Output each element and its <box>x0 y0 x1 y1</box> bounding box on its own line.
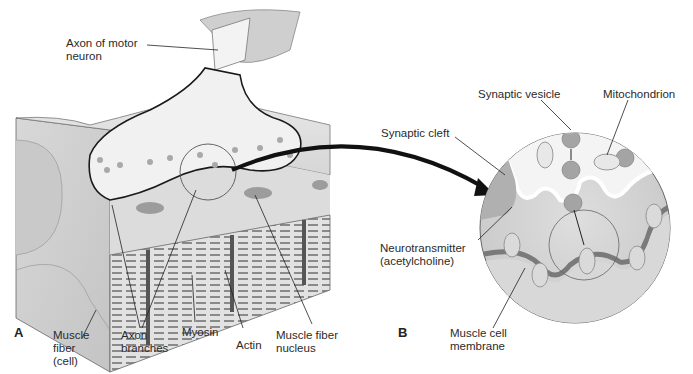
label-actin: Actin <box>236 339 262 352</box>
label-muscle-fiber-nucleus: Muscle fiber nucleus <box>276 329 338 355</box>
label-synaptic-vesicle: Synaptic vesicle <box>478 88 560 101</box>
synapse-magnified-view <box>480 120 680 330</box>
label-axon-of-motor-neuron: Axon of motor neuron <box>66 37 138 63</box>
label-muscle-fiber-cell: Muscle fiber (cell) <box>53 329 89 368</box>
label-synaptic-cleft: Synaptic cleft <box>381 127 449 140</box>
panel-label-b: B <box>398 325 407 340</box>
neuromuscular-junction-figure: A B Axon of motor neuron Muscle fiber (c… <box>0 0 693 374</box>
label-myosin: Myosin <box>182 326 218 339</box>
label-mitochondrion: Mitochondrion <box>603 88 675 101</box>
label-muscle-cell-membrane: Muscle cell membrane <box>450 327 507 353</box>
label-axon-branches: Axon branches <box>121 329 168 355</box>
panel-label-a: A <box>14 325 23 340</box>
label-neurotransmitter: Neurotransmitter (acetylcholine) <box>380 242 466 268</box>
